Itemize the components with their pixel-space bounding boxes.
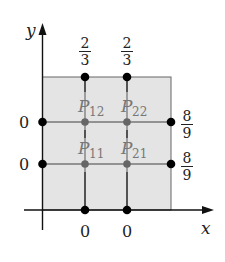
svg-text:8: 8 bbox=[183, 150, 192, 166]
y-axis-label: y bbox=[25, 20, 36, 40]
svg-text:12: 12 bbox=[89, 105, 104, 119]
svg-text:2: 2 bbox=[123, 35, 132, 51]
top-boundary-value-1: 2 3 bbox=[79, 35, 91, 68]
top-boundary-value-2: 2 3 bbox=[121, 35, 133, 68]
svg-text:21: 21 bbox=[132, 147, 147, 161]
svg-text:9: 9 bbox=[183, 125, 192, 141]
svg-text:22: 22 bbox=[132, 105, 147, 119]
left-boundary-value-2: 0 bbox=[19, 155, 29, 174]
x-axis-label: x bbox=[201, 218, 211, 238]
y-axis-arrow-icon bbox=[39, 23, 47, 35]
left-boundary-value-1: 0 bbox=[19, 113, 29, 132]
svg-text:2: 2 bbox=[81, 35, 90, 51]
bottom-boundary-value-1: 0 bbox=[80, 222, 90, 241]
shaded-region bbox=[43, 77, 172, 210]
bottom-boundary-value-2: 0 bbox=[122, 222, 132, 241]
right-boundary-value-2: 8 9 bbox=[181, 150, 193, 183]
grid-diagram: y x 2 3 2 3 0 0 8 9 8 9 0 0 P 12 P 22 P … bbox=[0, 0, 225, 262]
svg-text:3: 3 bbox=[81, 52, 90, 68]
svg-text:3: 3 bbox=[123, 52, 132, 68]
right-boundary-value-1: 8 9 bbox=[181, 108, 193, 141]
x-axis-arrow-icon bbox=[202, 206, 214, 214]
svg-text:11: 11 bbox=[89, 147, 104, 161]
svg-text:9: 9 bbox=[183, 167, 192, 183]
svg-text:8: 8 bbox=[183, 108, 192, 124]
